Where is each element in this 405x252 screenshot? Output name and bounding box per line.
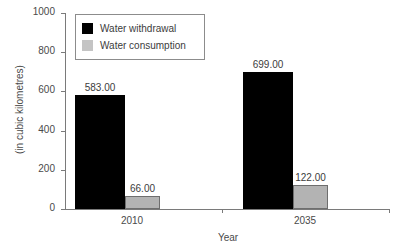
y-axis-label: (in cubic kilometres) bbox=[14, 40, 25, 180]
legend-item-water-withdrawal: Water withdrawal bbox=[82, 20, 198, 37]
y-axis-line bbox=[65, 13, 66, 209]
y-tick-800: 800 bbox=[61, 52, 66, 53]
chart-legend: Water withdrawal Water consumption bbox=[75, 14, 205, 60]
y-tick-1000: 1000 bbox=[61, 13, 66, 14]
x-tick-divider bbox=[222, 209, 223, 213]
y-tick-label-800: 800 bbox=[38, 45, 55, 56]
y-tick-label-600: 600 bbox=[38, 84, 55, 95]
bar-value-2035-water-withdrawal: 699.00 bbox=[253, 59, 284, 70]
bar-value-2035-water-consumption: 122.00 bbox=[295, 172, 326, 183]
bar-value-2010-water-withdrawal: 583.00 bbox=[85, 82, 116, 93]
x-axis-line bbox=[65, 209, 390, 210]
bar-chart: (in cubic kilometres) Year 0 200 400 600… bbox=[0, 0, 405, 252]
y-tick-label-1000: 1000 bbox=[33, 6, 55, 17]
bar-2010-water-withdrawal: 583.00 bbox=[75, 95, 125, 209]
y-tick-label-400: 400 bbox=[38, 124, 55, 135]
legend-label-water-consumption: Water consumption bbox=[100, 40, 186, 51]
y-tick-600: 600 bbox=[61, 91, 66, 92]
x-tick-label-2010: 2010 bbox=[102, 215, 162, 226]
legend-swatch-icon-water-consumption bbox=[82, 40, 93, 51]
x-tick-end bbox=[389, 209, 390, 213]
y-tick-0: 0 bbox=[61, 209, 66, 210]
bar-value-2010-water-consumption: 66.00 bbox=[130, 183, 155, 194]
bar-2010-water-consumption: 66.00 bbox=[125, 196, 160, 209]
legend-label-water-withdrawal: Water withdrawal bbox=[100, 23, 176, 34]
y-tick-label-0: 0 bbox=[49, 202, 55, 213]
x-tick-label-2035: 2035 bbox=[275, 215, 335, 226]
y-tick-400: 400 bbox=[61, 131, 66, 132]
y-tick-200: 200 bbox=[61, 170, 66, 171]
y-tick-label-200: 200 bbox=[38, 163, 55, 174]
bar-2035-water-withdrawal: 699.00 bbox=[243, 72, 293, 209]
x-axis-label: Year bbox=[168, 232, 288, 243]
legend-item-water-consumption: Water consumption bbox=[82, 37, 198, 54]
bar-2035-water-consumption: 122.00 bbox=[293, 185, 328, 209]
legend-swatch-icon-water-withdrawal bbox=[82, 23, 93, 34]
